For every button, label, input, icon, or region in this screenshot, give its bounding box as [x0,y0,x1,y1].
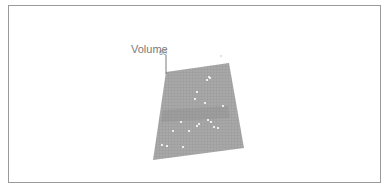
data-point [194,98,196,100]
data-point [210,121,212,123]
data-point [207,119,209,121]
data-point [217,127,219,129]
data-point [161,144,163,146]
axis-corner-marker [220,55,222,57]
data-point [196,125,198,127]
data-point [196,91,198,93]
data-point [182,146,184,148]
data-point [166,145,168,147]
data-point [222,105,224,107]
data-point [206,79,208,81]
data-point [213,126,215,128]
data-point [172,130,174,132]
data-point [180,121,182,123]
data-point [204,102,206,104]
3d-scatter-plot[interactable] [0,0,388,191]
data-point [188,130,190,132]
z-axis-tick-label: 60 [159,49,167,56]
data-point [198,123,200,125]
data-point [209,77,211,79]
cut-off-strip [0,185,388,191]
